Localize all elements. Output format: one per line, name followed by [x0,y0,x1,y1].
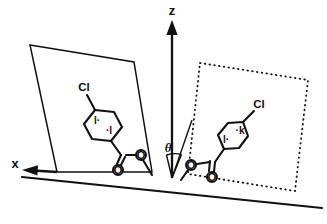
molecular-tilt-diagram: z x θ Cl l· ·l [0,0,327,224]
left-ring-mark-2: ·l [106,125,112,136]
right-ester-single-bond [197,162,210,164]
baseline-segment [22,177,322,208]
left-carbonyl-double-bond-a [117,155,121,164]
right-plane-outline [188,63,308,191]
surface-x-axis: x [11,156,57,176]
left-molecular-plane [30,45,152,172]
right-ring-mark-1: l· [223,134,229,145]
left-ring-to-carbonyl-bond [111,141,121,155]
z-axis-arrowhead [166,20,177,35]
x-axis-arrowhead [22,165,38,175]
surface-baseline [22,177,322,208]
left-ester-oxygen-label: O [137,149,146,161]
left-plane-outline [30,45,152,172]
figure-root: z x θ Cl l· ·l [0,0,327,224]
right-molecular-plane [188,63,308,191]
left-carbonyl-oxygen-label: O [114,164,123,176]
z-axis-label: z [169,3,176,18]
left-benzene-ring [84,110,122,141]
right-ring-to-carbonyl-bond [215,149,224,162]
left-c-cl-bond [87,95,95,110]
left-chlorine-label: Cl [78,81,90,93]
right-oxygen-to-surface-bond [181,170,188,180]
left-chlorophenyl-ester: Cl l· ·l O O [78,81,152,176]
right-ring-mark-2: ·k [236,125,245,136]
right-c-cl-bond [243,111,254,122]
left-ring-mark-1: l· [94,115,100,126]
x-axis-label: x [11,156,19,171]
right-carbonyl-oxygen-label: O [208,171,217,183]
right-chlorine-label: Cl [253,98,265,110]
right-chlorophenyl-ester: Cl ·k l· O O [181,98,265,183]
tilt-angle-label: θ [165,140,172,155]
